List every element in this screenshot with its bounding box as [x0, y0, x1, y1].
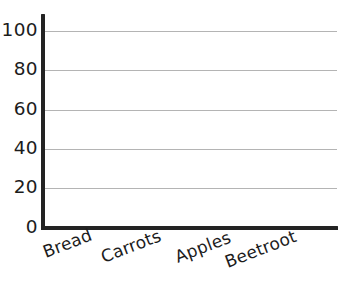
x-category-label-carrots: Carrots — [98, 225, 164, 266]
x-axis-category-labels: BreadCarrotsApplesBeetroot — [0, 0, 343, 289]
x-category-label-bread: Bread — [40, 225, 95, 262]
x-category-label-beetroot: Beetroot — [222, 226, 299, 272]
bar-chart: 100806040200 BreadCarrotsApplesBeetroot — [0, 0, 343, 289]
